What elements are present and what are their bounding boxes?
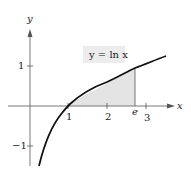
x-axis-arrow-icon: [167, 104, 175, 109]
y-tick-label-1: 1: [18, 60, 24, 71]
ln-area-figure: y x 1 2 3 e 1 −1 y = ln x: [0, 0, 191, 175]
x-tick-label-e: e: [132, 106, 138, 117]
x-axis-label: x: [177, 100, 183, 111]
x-tick-label-1: 1: [66, 111, 72, 122]
x-tick-label-3: 3: [144, 112, 150, 123]
y-axis-arrow-icon: [28, 29, 33, 37]
plot-svg: y x 1 2 3 e 1 −1 y = ln x: [0, 0, 191, 175]
ln-curve: [39, 56, 166, 166]
y-axis-label: y: [26, 13, 33, 24]
function-label: y = ln x: [88, 49, 128, 60]
x-tick-label-2: 2: [105, 111, 111, 122]
y-tick-label-neg1: −1: [12, 140, 27, 151]
